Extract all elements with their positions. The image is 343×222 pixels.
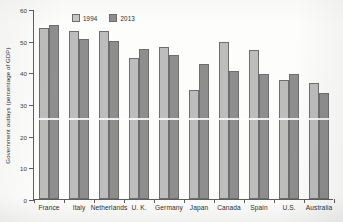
bar-1994: [99, 31, 109, 199]
chart-figure: Government outlays (percentage of GDP) F…: [0, 0, 343, 222]
bar-2013: [259, 74, 269, 199]
x-axis-tick: [34, 199, 35, 203]
bar-group: France: [34, 10, 64, 199]
bar-2013: [79, 39, 89, 199]
bar-group: U. K.: [124, 10, 154, 199]
y-axis-tick-label: 40: [20, 70, 27, 77]
bar-1994: [189, 90, 199, 199]
y-axis-title-text: Government outlays (percentage of GDP): [4, 47, 11, 163]
x-axis-label: Germany: [155, 204, 183, 211]
bar-group: Australia: [304, 10, 334, 199]
y-axis-tick: [29, 200, 34, 201]
y-axis-tick-label: 0: [23, 197, 27, 204]
bar-1994: [309, 83, 319, 199]
bar-1994: [249, 50, 259, 199]
x-axis-label: France: [38, 204, 59, 211]
bar-1994: [279, 80, 289, 199]
y-axis-tick: [29, 168, 34, 169]
bar-1994: [69, 31, 79, 199]
bar-group: Netherlands: [94, 10, 124, 199]
chart-legend: 1994 2013: [72, 14, 135, 22]
y-axis-tick: [29, 73, 34, 74]
x-axis-label: Italy: [73, 204, 86, 211]
x-axis-tick: [334, 199, 335, 203]
x-axis-label: Japan: [190, 204, 208, 211]
x-axis-tick: [94, 199, 95, 203]
x-axis-tick: [244, 199, 245, 203]
y-axis-tick: [29, 105, 34, 106]
x-axis-tick: [304, 199, 305, 203]
x-axis-tick: [154, 199, 155, 203]
x-axis-label: Netherlands: [91, 204, 128, 211]
y-axis-title: Government outlays (percentage of GDP): [2, 10, 13, 200]
y-axis-tick: [29, 137, 34, 138]
bar-1994: [39, 28, 49, 199]
bar-group: Canada: [214, 10, 244, 199]
bar-2013: [319, 93, 329, 199]
y-axis-tick-label: 50: [20, 38, 27, 45]
bar-2013: [169, 55, 179, 199]
legend-item-1994: 1994: [72, 14, 97, 22]
bar-group: Italy: [64, 10, 94, 199]
bar-2013: [229, 71, 239, 199]
bar-group: Japan: [184, 10, 214, 199]
bar-2013: [289, 74, 299, 199]
plot-area: FranceItalyNetherlandsU. K.GermanyJapanC…: [33, 10, 333, 200]
y-axis-tick-label: 10: [20, 165, 27, 172]
legend-item-2013: 2013: [109, 14, 134, 22]
x-axis-label: Spain: [250, 204, 267, 211]
bar-group: Germany: [154, 10, 184, 199]
x-axis-label: U.S.: [282, 204, 295, 211]
bar-group: U.S.: [274, 10, 304, 199]
legend-swatch-2013-icon: [109, 14, 117, 22]
bar-2013: [139, 49, 149, 199]
y-axis-tick-label: 20: [20, 133, 27, 140]
x-axis-tick: [184, 199, 185, 203]
bar-1994: [129, 58, 139, 199]
bar-2013: [199, 64, 209, 199]
y-axis-tick: [29, 10, 34, 11]
plot-inner: FranceItalyNetherlandsU. K.GermanyJapanC…: [34, 10, 333, 199]
x-axis-label: Canada: [217, 204, 241, 211]
x-axis-label: Australia: [306, 204, 333, 211]
x-axis-label: U. K.: [131, 204, 146, 211]
bar-group: Spain: [244, 10, 274, 199]
bar-2013: [49, 25, 59, 199]
x-axis-tick: [274, 199, 275, 203]
x-axis-tick: [64, 199, 65, 203]
y-axis-tick: [29, 42, 34, 43]
bar-2013: [109, 41, 119, 199]
y-axis-tick-label: 30: [20, 102, 27, 109]
bar-1994: [159, 47, 169, 199]
x-axis-tick: [124, 199, 125, 203]
legend-label-2013: 2013: [120, 15, 134, 22]
y-axis-tick-label: 60: [20, 7, 27, 14]
bar-1994: [219, 42, 229, 199]
legend-swatch-1994-icon: [72, 14, 80, 22]
legend-label-1994: 1994: [83, 15, 97, 22]
x-axis-tick: [214, 199, 215, 203]
